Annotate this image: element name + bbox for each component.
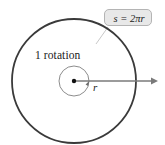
- radius-arrowhead: [151, 78, 158, 85]
- center-point-dot: [72, 79, 76, 83]
- callout-leader-line: [96, 27, 108, 44]
- arc-length-formula-label: s = 2πr: [105, 10, 153, 27]
- radius-label: r: [93, 82, 97, 93]
- circle-rotation-diagram: 1 rotation r s = 2πr: [0, 0, 165, 145]
- arc-length-callout-box: s = 2πr: [104, 9, 152, 26]
- rotation-count-label: 1 rotation: [35, 50, 80, 62]
